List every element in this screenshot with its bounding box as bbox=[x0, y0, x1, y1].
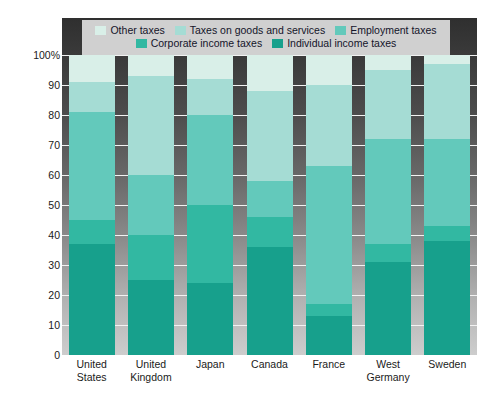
y-axis-tick-label: 10 bbox=[14, 320, 60, 330]
bar-segment bbox=[128, 175, 174, 235]
x-axis-label: Japan bbox=[180, 358, 240, 371]
bar-segment bbox=[247, 181, 293, 217]
y-axis-tick-label: 80 bbox=[14, 110, 60, 120]
y-axis-tick-label: 90 bbox=[14, 80, 60, 90]
x-axis-label: UnitedStates bbox=[62, 358, 122, 383]
bar-segment bbox=[306, 85, 352, 166]
bar-segment bbox=[247, 55, 293, 91]
legend-label: Individual income taxes bbox=[287, 37, 396, 50]
bar-segment bbox=[306, 316, 352, 355]
bar-segment bbox=[69, 82, 115, 112]
bar-segment bbox=[365, 70, 411, 139]
legend-swatch bbox=[175, 26, 186, 35]
bar-segment bbox=[247, 247, 293, 355]
bar-segment bbox=[424, 64, 470, 139]
y-axis-tick-label: 0 bbox=[14, 350, 60, 360]
bar-segment bbox=[69, 55, 115, 82]
bar-segment bbox=[424, 55, 470, 64]
bar-segment bbox=[306, 166, 352, 304]
bar-segment bbox=[69, 112, 115, 220]
bar-segment bbox=[187, 55, 233, 79]
legend-swatch bbox=[272, 39, 283, 48]
bar-segment bbox=[187, 115, 233, 205]
bar-united-kingdom bbox=[128, 55, 174, 355]
bar-segment bbox=[365, 55, 411, 70]
bar-segment bbox=[187, 205, 233, 283]
chart-legend: Other taxesTaxes on goods and servicesEm… bbox=[82, 20, 450, 55]
bar-segment bbox=[424, 139, 470, 226]
legend-item: Other taxes bbox=[95, 24, 164, 37]
y-axis: Percentage of total tax revenue 100%9080… bbox=[4, 18, 60, 355]
legend-row-primary: Other taxesTaxes on goods and servicesEm… bbox=[88, 24, 444, 37]
y-axis-tick-label: 100% bbox=[14, 50, 60, 60]
y-axis-tick-label: 20 bbox=[14, 290, 60, 300]
bar-segment bbox=[187, 283, 233, 355]
legend-swatch bbox=[95, 26, 106, 35]
legend-item: Employment taxes bbox=[335, 24, 436, 37]
legend-swatch bbox=[136, 39, 147, 48]
bar-segment bbox=[365, 139, 411, 244]
bar-france bbox=[306, 55, 352, 355]
legend-label: Other taxes bbox=[110, 24, 164, 37]
bar-segment bbox=[247, 217, 293, 247]
bar-sweden bbox=[424, 55, 470, 355]
bar-segment bbox=[306, 304, 352, 316]
x-axis-label: WestGermany bbox=[358, 358, 418, 383]
x-axis-label: UnitedKingdom bbox=[121, 358, 181, 383]
bar-segment bbox=[69, 220, 115, 244]
y-axis-tick-label: 70 bbox=[14, 140, 60, 150]
bar-segment bbox=[187, 79, 233, 115]
bar-west-germany bbox=[365, 55, 411, 355]
tax-revenue-stacked-bar-chart: Percentage of total tax revenue 100%9080… bbox=[0, 0, 493, 404]
legend-label: Corporate income taxes bbox=[151, 37, 262, 50]
y-axis-tick-label: 40 bbox=[14, 230, 60, 240]
bar-canada bbox=[247, 55, 293, 355]
legend-item: Individual income taxes bbox=[272, 37, 396, 50]
bar-segment bbox=[247, 91, 293, 181]
bar-segment bbox=[306, 55, 352, 85]
x-axis-label: France bbox=[299, 358, 359, 371]
bar-segment bbox=[69, 244, 115, 355]
bars-layer bbox=[62, 18, 477, 355]
y-axis-tick-label: 60 bbox=[14, 170, 60, 180]
x-axis-label: Sweden bbox=[417, 358, 477, 371]
legend-swatch bbox=[335, 26, 346, 35]
bar-segment bbox=[128, 55, 174, 76]
bar-segment bbox=[128, 280, 174, 355]
legend-item: Taxes on goods and services bbox=[175, 24, 325, 37]
bar-united-states bbox=[69, 55, 115, 355]
x-axis-label: Canada bbox=[240, 358, 300, 371]
bar-segment bbox=[424, 226, 470, 241]
bar-segment bbox=[365, 244, 411, 262]
bar-japan bbox=[187, 55, 233, 355]
bar-segment bbox=[365, 262, 411, 355]
legend-label: Taxes on goods and services bbox=[190, 24, 325, 37]
y-axis-tick-label: 30 bbox=[14, 260, 60, 270]
y-axis-tick-label: 50 bbox=[14, 200, 60, 210]
plot-area bbox=[62, 18, 477, 355]
legend-row-secondary: Corporate income taxesIndividual income … bbox=[88, 37, 444, 50]
bar-segment bbox=[128, 76, 174, 175]
bar-segment bbox=[128, 235, 174, 280]
bar-segment bbox=[424, 241, 470, 355]
legend-label: Employment taxes bbox=[350, 24, 436, 37]
legend-item: Corporate income taxes bbox=[136, 37, 262, 50]
x-axis-category-labels: UnitedStatesUnitedKingdomJapanCanadaFran… bbox=[62, 358, 477, 402]
